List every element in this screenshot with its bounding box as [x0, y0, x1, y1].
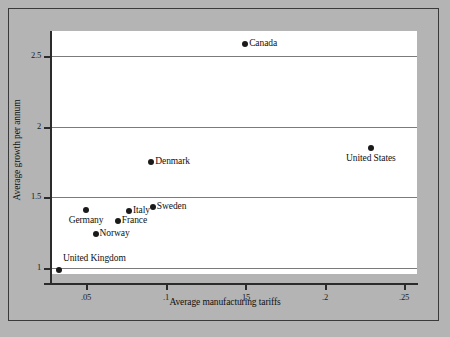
y-tick-mark [44, 56, 50, 58]
data-point-canada[interactable] [242, 41, 248, 47]
data-label-germany: Germany [56, 215, 116, 225]
data-label-italy: Italy [133, 205, 150, 215]
data-label-united-kingdom: United Kingdom [63, 253, 126, 263]
y-tick-label: 1.5 [31, 191, 41, 201]
data-point-sweden[interactable] [150, 204, 156, 210]
gridline-y-1 [51, 268, 417, 269]
x-tick-mark [86, 284, 88, 290]
data-label-denmark: Denmark [155, 156, 190, 166]
y-tick-mark [44, 268, 50, 270]
gridline-y-2.5 [51, 56, 417, 57]
data-point-united-kingdom[interactable] [56, 267, 62, 273]
y-axis-line [50, 31, 52, 284]
data-point-italy[interactable] [126, 208, 132, 214]
x-axis-line [44, 283, 418, 285]
y-tick-label: 1 [37, 262, 41, 272]
y-tick-label: 2.5 [31, 50, 41, 60]
data-label-norway: Norway [100, 228, 130, 238]
y-axis-title: Average growth per annum [12, 65, 22, 235]
data-point-norway[interactable] [93, 231, 99, 237]
gridline-y-2 [51, 127, 417, 128]
data-point-germany[interactable] [83, 207, 89, 213]
scatter-chart: 11.522.5 .05.1.15.2.25 CanadaUnited Stat… [0, 0, 450, 337]
data-label-united-states: United States [341, 153, 401, 163]
x-axis-title: Average manufacturing tariffs [0, 297, 450, 307]
y-tick-mark [44, 197, 50, 199]
data-label-france: France [122, 215, 147, 225]
x-tick-mark [404, 284, 406, 290]
data-point-france[interactable] [115, 218, 121, 224]
y-tick-label: 2 [37, 121, 41, 131]
y-tick-mark [44, 127, 50, 129]
gridline-y-1.5 [51, 197, 417, 198]
x-tick-mark [245, 284, 247, 290]
data-label-sweden: Sweden [157, 201, 186, 211]
data-point-united-states[interactable] [368, 145, 374, 151]
data-label-canada: Canada [249, 38, 277, 48]
data-point-denmark[interactable] [148, 159, 154, 165]
x-tick-mark [325, 284, 327, 290]
x-tick-mark [166, 284, 168, 290]
